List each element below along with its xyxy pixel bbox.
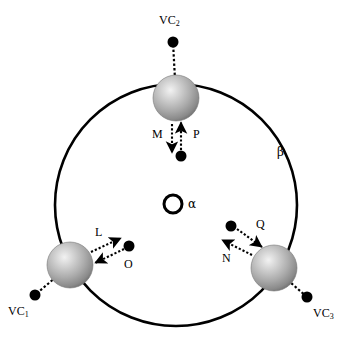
arrow-Q (237, 229, 262, 247)
dot-P-origin (176, 151, 187, 162)
sphere-top (153, 75, 199, 121)
label-force-m: M (152, 128, 163, 140)
alpha-circle (164, 195, 182, 213)
label-alpha: α (188, 198, 196, 210)
label-vc1: VC1 (8, 305, 29, 317)
label-force-q: Q (256, 218, 265, 230)
label-vc3: VC3 (313, 307, 334, 319)
sphere-bottom-right (251, 245, 297, 291)
label-force-p: P (193, 128, 200, 140)
arrow-L (91, 238, 121, 252)
dot-vc2 (168, 37, 179, 48)
dot-O-origin (124, 241, 135, 252)
diagram-svg (0, 0, 353, 341)
sphere-bottom-left (47, 242, 93, 288)
label-force-n: N (222, 252, 231, 264)
dot-vc1 (30, 290, 41, 301)
label-force-o: O (124, 258, 133, 270)
arrow-O (95, 249, 124, 263)
dot-Q-origin (226, 221, 237, 232)
dot-vc3 (302, 292, 313, 303)
label-beta: β (277, 146, 284, 158)
diagram-canvas: VC2 VC1 VC3 α β M P L O N Q (0, 0, 353, 341)
label-vc2: VC2 (159, 14, 180, 26)
label-force-l: L (95, 226, 102, 238)
